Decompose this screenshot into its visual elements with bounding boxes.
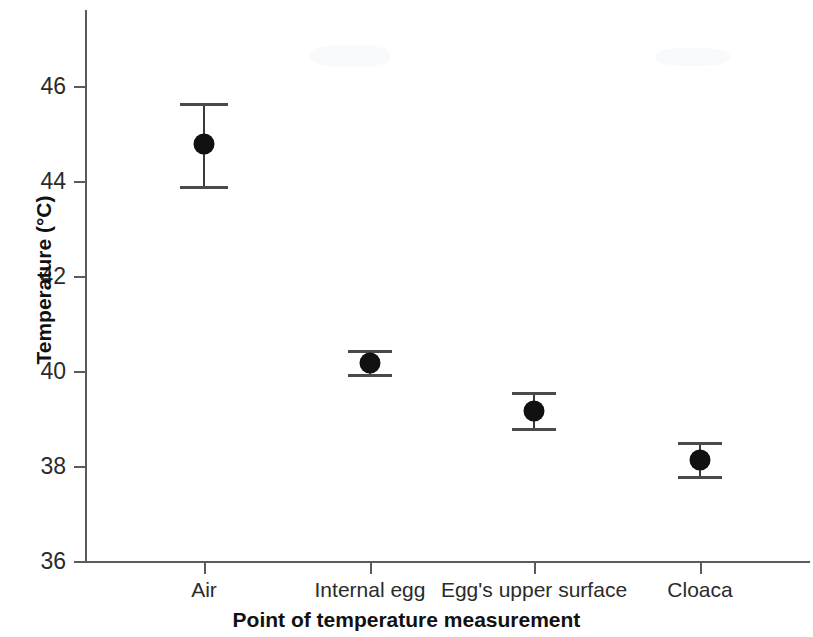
- y-axis-line: [85, 10, 87, 563]
- y-axis-title: Temperature (°C): [32, 130, 56, 430]
- data-point-marker: [194, 134, 215, 155]
- error-bar-cap-upper: [180, 103, 228, 106]
- y-axis-tick: [74, 466, 85, 468]
- data-point-group: [164, 0, 244, 637]
- y-axis-tick-label: 38: [18, 455, 66, 478]
- data-point-group: [330, 0, 410, 637]
- y-axis-tick: [74, 371, 85, 373]
- y-axis-tick: [74, 181, 85, 183]
- y-axis-tick: [74, 276, 85, 278]
- data-point-marker: [690, 449, 711, 470]
- error-bar-cap-upper: [512, 392, 556, 395]
- data-point-marker: [524, 401, 545, 422]
- error-bar-cap-lower: [678, 476, 722, 479]
- data-point-group: [494, 0, 574, 637]
- error-bar-cap-lower: [180, 186, 228, 189]
- error-bar-cap-lower: [348, 374, 392, 377]
- data-point-group: [660, 0, 740, 637]
- chart-page: 363840424446 AirInternal eggEgg's upper …: [0, 0, 813, 637]
- error-bar-cap-upper: [678, 442, 722, 445]
- x-axis-title: Point of temperature measurement: [0, 608, 813, 632]
- y-axis-tick-label: 46: [18, 75, 66, 98]
- y-axis-tick-label: 36: [18, 550, 66, 573]
- data-point-marker: [360, 353, 381, 374]
- error-bar-cap-lower: [512, 428, 556, 431]
- y-axis-tick: [74, 86, 85, 88]
- y-axis-tick: [74, 561, 85, 563]
